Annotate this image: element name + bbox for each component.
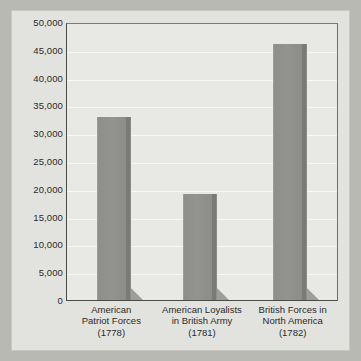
plot-area [66, 23, 338, 301]
x-axis-category-label: AmericanPatriot Forces(1778) [66, 304, 157, 338]
x-axis-label-line: Patriot Forces [66, 315, 157, 326]
x-axis-label-line: North America [247, 315, 338, 326]
y-axis-tick-label: 15,000 [15, 213, 63, 223]
bar-drop-shadow [306, 287, 319, 300]
x-axis-label-line: in British Army [157, 315, 248, 326]
y-axis-tick-label: 35,000 [15, 101, 63, 111]
bar-drop-shadow [130, 287, 143, 300]
x-axis-label-line: British Forces in [247, 304, 338, 315]
chart-screenshot: 05,00010,00015,00020,00025,00030,00035,0… [0, 0, 361, 361]
y-axis-tick-label: 20,000 [15, 185, 63, 195]
x-axis-category-label: American Loyalistsin British Army(1781) [157, 304, 248, 338]
chart-panel: 05,00010,00015,00020,00025,00030,00035,0… [11, 10, 350, 351]
y-axis-tick-label: 25,000 [15, 157, 63, 167]
x-axis-category-label: British Forces inNorth America(1782) [247, 304, 338, 338]
y-axis-tick-label: 40,000 [15, 74, 63, 84]
bar-depth-shading [126, 117, 130, 300]
x-axis-label-line: (1781) [157, 327, 248, 338]
y-axis-tick-label: 30,000 [15, 129, 63, 139]
y-axis-tick-label: 5,000 [15, 268, 63, 278]
bar-drop-shadow [216, 287, 229, 300]
x-axis-label-line: American Loyalists [157, 304, 248, 315]
x-axis-label-line: (1778) [66, 327, 157, 338]
x-axis-label-line: (1782) [247, 327, 338, 338]
y-axis-tick-label: 0 [15, 296, 63, 306]
x-axis-label-line: American [66, 304, 157, 315]
y-axis-labels: 05,00010,00015,00020,00025,00030,00035,0… [12, 11, 63, 352]
y-axis-tick-label: 45,000 [15, 46, 63, 56]
bar-depth-shading [302, 44, 306, 300]
y-axis-tick-label: 50,000 [15, 18, 63, 28]
x-axis-labels: AmericanPatriot Forces(1778)American Loy… [66, 304, 338, 350]
bar-depth-shading [212, 194, 216, 300]
y-axis-tick-label: 10,000 [15, 240, 63, 250]
